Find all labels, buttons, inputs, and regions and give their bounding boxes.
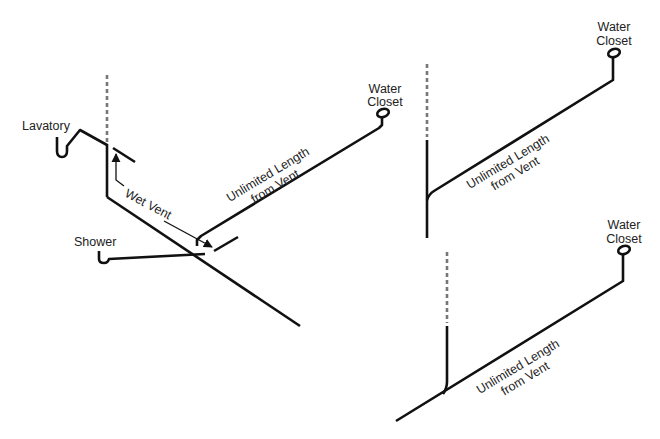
water-closet-label-line1: Water: [608, 218, 641, 232]
bottom-right-diagram: Unlimited Length from Vent Water Closet: [396, 218, 642, 421]
water-closet-label-line1: Water: [369, 82, 402, 96]
top-right-diagram: Unlimited Length from Vent Water Closet: [427, 20, 632, 238]
water-closet-label-line2: Closet: [606, 232, 642, 246]
lavatory-trap-icon: [57, 130, 107, 157]
wet-vent-label: Wet Vent: [123, 186, 175, 222]
shower-label: Shower: [74, 235, 116, 249]
water-closet-icon: [607, 47, 621, 59]
plumbing-diagram: Lavatory Shower Wet Vent Unlimited Lengt…: [0, 0, 660, 439]
wet-vent-diagram: Lavatory Shower Wet Vent Unlimited Lengt…: [22, 75, 403, 326]
water-closet-label-line1: Water: [598, 20, 631, 34]
main-drain-line: [107, 197, 300, 326]
wet-vent-tick-bottom: [214, 237, 238, 251]
lavatory-label: Lavatory: [22, 119, 71, 133]
vertical-stack: [443, 326, 447, 394]
water-closet-label-line2: Closet: [367, 95, 403, 109]
water-closet-label-line2: Closet: [596, 34, 632, 48]
wet-vent-arrow-up: [116, 154, 124, 186]
